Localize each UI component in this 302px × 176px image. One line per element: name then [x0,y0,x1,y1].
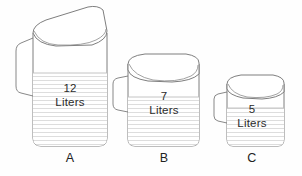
pitcher-c-caption: C [221,151,283,166]
pitcher-a-volume-label: 12 Liters [34,82,106,109]
pitcher-b-amount: 7 [129,90,199,104]
pitcher-a-unit: Liters [34,96,106,110]
pitcher-c-unit: Liters [221,117,283,131]
pitcher-a-handle [16,38,33,96]
pitcher-c-amount: 5 [221,103,283,117]
pitcher-b-rim [128,54,199,82]
pitcher-a-amount: 12 [34,82,106,96]
pitcher-b-caption: B [129,151,199,166]
pitcher-c-rim [227,75,284,99]
pitcher-b-volume-label: 7 Liters [129,90,199,117]
pitcher-a-caption: A [34,151,106,166]
diagram-canvas: 12 Liters 7 Liters 5 Liters A B C [0,0,302,176]
pitcher-b-unit: Liters [129,104,199,118]
pitcher-c-volume-label: 5 Liters [221,103,283,130]
pitcher-b-handle [113,76,128,112]
pitcher-a [16,6,110,146]
